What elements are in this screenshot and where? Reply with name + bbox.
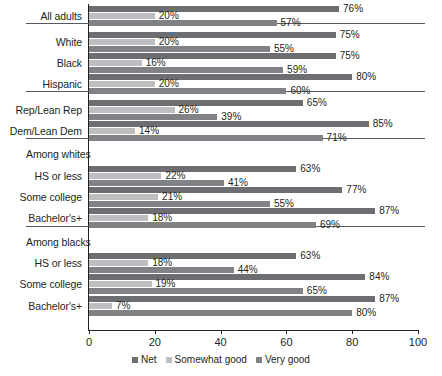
grouped-bar-chart: All adults76%20%57%White75%20%55%Black75… xyxy=(0,0,442,376)
bar-net[interactable] xyxy=(89,166,296,172)
bar-very-good-value: 71% xyxy=(327,132,347,144)
legend-label: Very good xyxy=(265,354,310,366)
legend-swatch-icon xyxy=(166,357,172,363)
legend-swatch-icon xyxy=(132,357,138,363)
bar-somewhat-good[interactable] xyxy=(89,260,148,266)
x-tick-label: 0 xyxy=(86,336,92,349)
category-label: Bachelor's+ xyxy=(0,213,82,224)
bar-net-value: 84% xyxy=(369,271,389,283)
category-label: HS or less xyxy=(0,258,82,269)
category-label: Black xyxy=(0,58,82,69)
bar-net-value: 65% xyxy=(307,97,327,109)
x-tick xyxy=(286,330,287,334)
bar-very-good[interactable] xyxy=(89,67,283,73)
bar-net[interactable] xyxy=(89,6,339,12)
category-label: Some college xyxy=(0,192,82,203)
bar-very-good[interactable] xyxy=(89,135,323,141)
bar-net-value: 77% xyxy=(346,184,366,196)
bar-net[interactable] xyxy=(89,53,336,59)
bar-somewhat-good[interactable] xyxy=(89,281,152,287)
bar-net[interactable] xyxy=(89,187,342,193)
category-label: All adults xyxy=(0,11,82,22)
bar-very-good-value: 57% xyxy=(281,17,301,29)
x-tick xyxy=(221,330,222,334)
bar-very-good[interactable] xyxy=(89,222,316,228)
bar-net[interactable] xyxy=(89,32,336,38)
x-tick-label: 100 xyxy=(409,336,427,349)
bar-very-good[interactable] xyxy=(89,310,352,316)
bar-somewhat-good[interactable] xyxy=(89,303,112,309)
x-axis-line xyxy=(88,330,418,331)
legend-item[interactable]: Somewhat good xyxy=(166,354,247,366)
legend-label: Net xyxy=(141,354,157,366)
x-tick-label: 20 xyxy=(149,336,161,349)
bar-very-good[interactable] xyxy=(89,46,270,52)
category-label: Hispanic xyxy=(0,79,82,90)
section-header-label: Among whites xyxy=(26,149,226,160)
x-tick xyxy=(352,330,353,334)
bar-very-good[interactable] xyxy=(89,267,234,273)
bar-net-value: 76% xyxy=(343,3,363,15)
bar-very-good[interactable] xyxy=(89,88,286,94)
bar-net-value: 87% xyxy=(379,293,399,305)
category-label: HS or less xyxy=(0,171,82,182)
bar-net-value: 75% xyxy=(340,50,360,62)
category-label: Rep/Lean Rep xyxy=(0,105,82,116)
bar-net-value: 85% xyxy=(373,118,393,130)
bar-net[interactable] xyxy=(89,74,352,80)
x-tick xyxy=(155,330,156,334)
chart-legend: NetSomewhat goodVery good xyxy=(0,354,442,366)
bar-somewhat-good[interactable] xyxy=(89,60,142,66)
bar-net-value: 80% xyxy=(356,71,376,83)
bar-very-good-value: 80% xyxy=(356,307,376,319)
bar-somewhat-good[interactable] xyxy=(89,39,155,45)
bar-very-good[interactable] xyxy=(89,180,224,186)
bar-net[interactable] xyxy=(89,208,375,214)
bar-net[interactable] xyxy=(89,274,365,280)
bar-somewhat-good[interactable] xyxy=(89,194,158,200)
category-label: Dem/Lean Dem xyxy=(0,126,82,137)
legend-label: Somewhat good xyxy=(175,354,247,366)
bar-net-value: 87% xyxy=(379,205,399,217)
x-tick-label: 80 xyxy=(346,336,358,349)
bar-net-value: 75% xyxy=(340,29,360,41)
x-tick xyxy=(89,330,90,334)
bar-somewhat-good[interactable] xyxy=(89,173,161,179)
bar-very-good-value: 69% xyxy=(320,219,340,231)
legend-item[interactable]: Net xyxy=(132,354,157,366)
bar-net-value: 63% xyxy=(300,163,320,175)
bar-very-good[interactable] xyxy=(89,288,303,294)
bar-somewhat-good[interactable] xyxy=(89,13,155,19)
category-label: White xyxy=(0,37,82,48)
category-label: Bachelor's+ xyxy=(0,301,82,312)
bar-very-good[interactable] xyxy=(89,114,217,120)
bar-somewhat-good[interactable] xyxy=(89,215,148,221)
bar-net-value: 63% xyxy=(300,250,320,262)
x-tick xyxy=(418,330,419,334)
bar-net[interactable] xyxy=(89,296,375,302)
x-tick-label: 60 xyxy=(280,336,292,349)
legend-swatch-icon xyxy=(256,357,262,363)
x-tick-label: 40 xyxy=(214,336,226,349)
plot-area: All adults76%20%57%White75%20%55%Black75… xyxy=(0,0,442,332)
bar-very-good-value: 60% xyxy=(290,85,310,97)
bar-very-good[interactable] xyxy=(89,201,270,207)
bar-somewhat-good[interactable] xyxy=(89,81,155,87)
section-header-label: Among blacks xyxy=(26,237,226,248)
bar-net[interactable] xyxy=(89,121,369,127)
bar-somewhat-good[interactable] xyxy=(89,107,175,113)
legend-item[interactable]: Very good xyxy=(256,354,310,366)
category-label: Some college xyxy=(0,279,82,290)
bar-net[interactable] xyxy=(89,253,296,259)
bar-very-good[interactable] xyxy=(89,20,277,26)
bar-somewhat-good[interactable] xyxy=(89,128,135,134)
